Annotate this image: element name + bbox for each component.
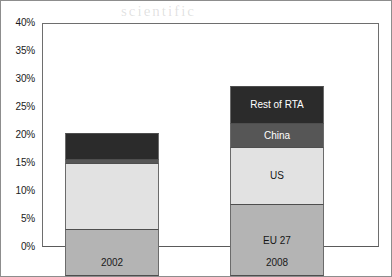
bar-2008[interactable]: Rest of RTAChinaUSEU 27	[230, 86, 324, 276]
y-axis-tick-label: 15%	[1, 158, 35, 168]
y-axis-tick-label: 35%	[1, 46, 35, 56]
x-axis-tick-label-2002: 2002	[52, 257, 172, 268]
bar-segment-us[interactable]	[65, 163, 159, 230]
y-axis-tick-label: 5%	[1, 214, 35, 224]
segment-label: EU 27	[263, 235, 291, 246]
y-axis-tick-label: 25%	[1, 102, 35, 112]
bar-segment-rest-of-rta[interactable]	[65, 133, 159, 159]
segment-label: China	[264, 130, 290, 141]
segment-label: Rest of RTA	[250, 99, 304, 110]
bar-segment-eu-27[interactable]	[65, 229, 159, 275]
chart-figure: scientific integrating a the internation…	[0, 0, 392, 277]
bar-segment-china[interactable]: China	[230, 123, 324, 147]
bar-2002[interactable]	[65, 133, 159, 276]
y-axis-tick-label: 20%	[1, 130, 35, 140]
y-axis-tick-label: 30%	[1, 74, 35, 84]
bar-segment-rest-of-rta[interactable]: Rest of RTA	[230, 86, 324, 124]
y-axis-tick-label: 10%	[1, 186, 35, 196]
ghost-text-line-1: scientific	[121, 3, 196, 20]
segment-label: US	[270, 170, 284, 181]
bar-segment-us[interactable]: US	[230, 147, 324, 205]
y-axis-tick-label: 0%	[1, 242, 35, 252]
y-axis-tick-label: 40%	[1, 18, 35, 28]
x-axis-tick-label-2008: 2008	[217, 257, 337, 268]
